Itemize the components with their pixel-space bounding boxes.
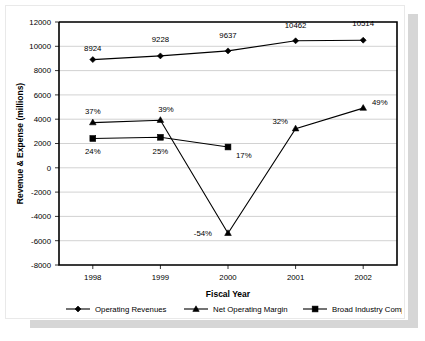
legend-label: Net Operating Margin [213,305,288,314]
legend-item-operating-revenues[interactable]: Operating Revenues [66,305,167,314]
y-tick-label: 2000 [34,139,52,148]
y-tick-label: 12000 [29,18,51,27]
series-broad-industry-composite: 24% 25% 17% [85,134,252,160]
chart-panel: 12000 10000 8000 6000 4000 2000 0 -2000 … [5,5,405,319]
y-tick-label: 4000 [34,115,52,124]
x-tick-label: 2001 [287,273,304,282]
data-label: 10514 [352,19,374,28]
marker-triangle [90,105,367,236]
chart-legend: Operating Revenues Net Operating Margin … [66,305,402,314]
figure-shadow-right [408,14,418,320]
x-tick-label: 2002 [355,273,372,282]
legend-square-icon [312,306,318,312]
x-axis-title: Fiscal Year [206,289,251,299]
y-axis-title: Revenue & Expense (millions) [15,83,25,205]
data-label: -54% [194,229,212,238]
y-tick-label: 6000 [34,91,52,100]
data-label: 37% [85,107,101,116]
data-label: 9228 [152,35,169,44]
data-label: 32% [272,117,288,126]
y-tick-label: -8000 [31,261,52,270]
x-tick-label: 1999 [152,273,169,282]
data-labels-operating-revenues: 8924 9228 9637 10462 10514 [84,19,375,53]
y-tick-label: 0 [47,164,52,173]
data-label: 17% [236,151,252,160]
legend-label: Operating Revenues [95,305,167,314]
legend-diamond-icon [75,306,81,312]
data-label: 49% [372,98,388,107]
data-label: 8924 [84,44,102,53]
y-tick-labels: 12000 10000 8000 6000 4000 2000 0 -2000 … [29,18,51,270]
series-operating-revenues: 8924 9228 9637 10462 10514 [84,19,375,63]
legend-label: Broad Industry Composite [332,305,402,314]
line-chart-svg: 12000 10000 8000 6000 4000 2000 0 -2000 … [6,6,402,316]
legend-item-broad-industry-composite[interactable]: Broad Industry Composite [303,305,402,314]
y-tick-label: -4000 [31,212,52,221]
legend-item-net-operating-margin[interactable]: Net Operating Margin [184,305,288,314]
x-tick-labels: 1998 1999 2000 2001 2002 [84,273,372,282]
y-tick-label: -6000 [31,237,52,246]
chart-figure: 12000 10000 8000 6000 4000 2000 0 -2000 … [0,0,425,341]
data-label: 39% [158,105,174,114]
y-tick-label: 10000 [29,42,51,51]
y-tick-label: 8000 [34,66,52,75]
data-label: 10462 [285,21,307,30]
data-label: 24% [85,147,101,156]
data-label: 9637 [219,31,236,40]
figure-shadow-bottom [30,320,418,328]
data-label: 25% [153,147,169,156]
x-tick-label: 2000 [219,273,237,282]
y-tick-label: -2000 [31,188,52,197]
x-tick-label: 1998 [84,273,101,282]
